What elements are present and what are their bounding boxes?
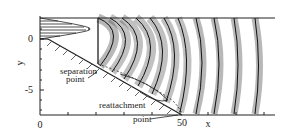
reattachment-arrow <box>150 115 178 119</box>
reattachment-label-line1: reattachment <box>99 100 146 110</box>
reattachment-label-line2: point <box>133 114 152 124</box>
y-tick-label-0: 0 <box>28 33 33 44</box>
separation-label-line2: point <box>66 74 85 84</box>
y-tick-label-minus5: -5 <box>25 84 33 95</box>
x-tick-label-50: 50 <box>177 117 187 128</box>
y-ticks <box>40 29 44 110</box>
x-tick-label-0: 0 <box>38 119 43 130</box>
y-axis-label: y <box>14 61 25 66</box>
vector-plot: 0 -5 0 50 x y <box>0 0 288 136</box>
inlet-profile <box>40 18 90 39</box>
x-axis-label: x <box>206 118 211 129</box>
